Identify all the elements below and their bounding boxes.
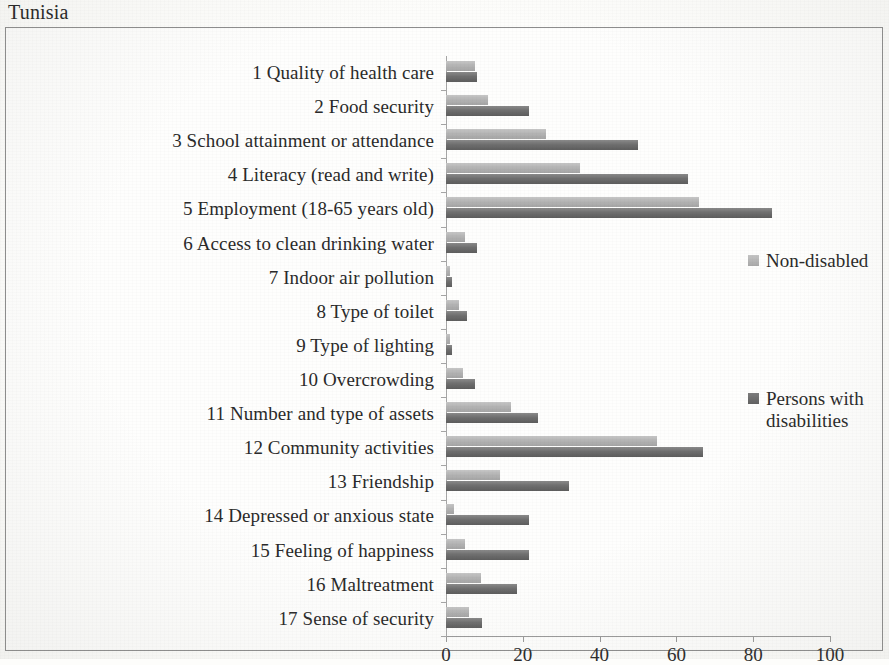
bar-non-disabled: [446, 504, 454, 514]
x-axis-tick-label: 0: [441, 644, 451, 665]
y-axis-tick: [441, 534, 447, 535]
bar-persons-with-disabilities: [446, 515, 529, 525]
category-row: 14 Depressed or anxious state: [16, 499, 441, 533]
bar-group: [446, 602, 830, 636]
bar-persons-with-disabilities: [446, 550, 529, 560]
bar-group: [446, 192, 830, 226]
category-label: 9 Type of lighting: [296, 335, 434, 357]
category-row: 2 Food security: [16, 90, 441, 124]
bar-group: [446, 534, 830, 568]
bar-group: [446, 499, 830, 533]
category-row: 15 Feeling of happiness: [16, 534, 441, 568]
bar-group: [446, 329, 830, 363]
category-label: 13 Friendship: [328, 471, 434, 493]
y-axis-tick: [441, 397, 447, 398]
bar-persons-with-disabilities: [446, 345, 452, 355]
category-label-column: 1 Quality of health care2 Food security3…: [16, 56, 441, 636]
plot-area: [446, 56, 830, 636]
bar-persons-with-disabilities: [446, 243, 477, 253]
legend-swatch-icon-persons-with-disabilities: [748, 393, 759, 404]
y-axis-tick: [441, 602, 447, 603]
bar-non-disabled: [446, 197, 699, 207]
category-row: 11 Number and type of assets: [16, 397, 441, 431]
bar-group: [446, 90, 830, 124]
category-label: 10 Overcrowding: [299, 369, 434, 391]
bar-non-disabled: [446, 607, 469, 617]
bar-group: [446, 158, 830, 192]
bar-persons-with-disabilities: [446, 208, 772, 218]
bar-non-disabled: [446, 95, 488, 105]
x-axis: 020406080100: [446, 636, 830, 665]
bar-group: [446, 56, 830, 90]
category-row: 5 Employment (18-65 years old): [16, 192, 441, 226]
category-label: 8 Type of toilet: [316, 301, 434, 323]
x-axis-tick: [600, 636, 601, 642]
category-label: 14 Depressed or anxious state: [204, 505, 434, 527]
category-row: 1 Quality of health care: [16, 56, 441, 90]
legend-label-persons-with-disabilities: Persons with disabilities: [766, 388, 882, 432]
bar-group: [446, 124, 830, 158]
bar-non-disabled: [446, 61, 475, 71]
bar-non-disabled: [446, 470, 500, 480]
y-axis-tick: [441, 124, 447, 125]
bar-persons-with-disabilities: [446, 584, 517, 594]
bar-persons-with-disabilities: [446, 413, 538, 423]
bar-non-disabled: [446, 232, 465, 242]
category-row: 7 Indoor air pollution: [16, 261, 441, 295]
x-axis-tick: [753, 636, 754, 642]
x-axis-tick-label: 80: [744, 644, 763, 665]
chart-frame: 1 Quality of health care2 Food security3…: [5, 27, 883, 651]
category-row: 9 Type of lighting: [16, 329, 441, 363]
bar-non-disabled: [446, 402, 511, 412]
bar-non-disabled: [446, 334, 450, 344]
y-axis-tick: [441, 158, 447, 159]
category-row: 12 Community activities: [16, 431, 441, 465]
bar-non-disabled: [446, 266, 450, 276]
category-label: 17 Sense of security: [278, 608, 434, 630]
category-row: 17 Sense of security: [16, 602, 441, 636]
category-row: 16 Maltreatment: [16, 568, 441, 602]
y-axis-tick: [441, 90, 447, 91]
bar-persons-with-disabilities: [446, 618, 482, 628]
bar-group: [446, 465, 830, 499]
category-label: 6 Access to clean drinking water: [183, 233, 434, 255]
category-label: 7 Indoor air pollution: [269, 267, 434, 289]
y-axis-tick: [441, 568, 447, 569]
y-axis-tick: [441, 500, 447, 501]
bar-persons-with-disabilities: [446, 311, 467, 321]
y-axis-tick: [441, 227, 447, 228]
bar-persons-with-disabilities: [446, 447, 703, 457]
x-axis-line: [446, 636, 830, 637]
bar-group: [446, 431, 830, 465]
category-row: 3 School attainment or attendance: [16, 124, 441, 158]
bar-non-disabled: [446, 300, 459, 310]
category-label: 11 Number and type of assets: [207, 403, 434, 425]
bar-persons-with-disabilities: [446, 379, 475, 389]
category-label: 3 School attainment or attendance: [172, 130, 434, 152]
category-label: 4 Literacy (read and write): [228, 164, 434, 186]
bar-persons-with-disabilities: [446, 72, 477, 82]
y-axis-tick: [441, 329, 447, 330]
x-axis-tick: [676, 636, 677, 642]
y-axis-tick: [441, 636, 447, 637]
category-label: 15 Feeling of happiness: [251, 540, 434, 562]
category-row: 6 Access to clean drinking water: [16, 227, 441, 261]
page-title: Tunisia: [8, 1, 69, 24]
bar-persons-with-disabilities: [446, 481, 569, 491]
bar-non-disabled: [446, 573, 481, 583]
y-axis-tick: [441, 192, 447, 193]
category-label: 2 Food security: [314, 96, 434, 118]
bar-non-disabled: [446, 539, 465, 549]
y-axis-tick: [441, 465, 447, 466]
x-axis-tick-label: 60: [667, 644, 686, 665]
x-axis-tick-label: 40: [590, 644, 609, 665]
bar-persons-with-disabilities: [446, 174, 688, 184]
category-label: 12 Community activities: [244, 437, 434, 459]
bar-non-disabled: [446, 436, 657, 446]
category-row: 13 Friendship: [16, 465, 441, 499]
category-label: 5 Employment (18-65 years old): [183, 198, 434, 220]
bar-persons-with-disabilities: [446, 106, 529, 116]
x-axis-tick-label: 20: [513, 644, 532, 665]
bar-non-disabled: [446, 129, 546, 139]
bar-non-disabled: [446, 368, 463, 378]
